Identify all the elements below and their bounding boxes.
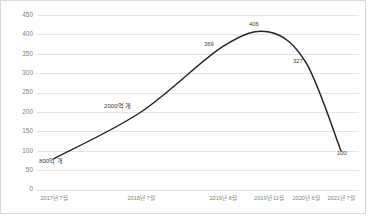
- x-axis-tick-label: 2018년 7월: [127, 196, 154, 202]
- line-chart: 450400350300250200150100500 2017년 7월2018…: [0, 0, 366, 214]
- x-axis-tick-label: 2020년 6월: [292, 196, 319, 202]
- plot-area: 450400350300250200150100500 2017년 7월2018…: [1, 1, 367, 215]
- x-axis-tick-label: 2017년 7월: [40, 196, 67, 202]
- x-axis-tick-label: 2019년 11월: [254, 196, 284, 202]
- data-point-label: 2000억 개: [104, 103, 131, 109]
- data-point-label: 800억 개: [39, 158, 63, 164]
- data-point-label: 327: [293, 59, 303, 65]
- data-point-label: 406: [249, 22, 259, 28]
- data-point-label: 369: [204, 42, 214, 48]
- x-axis-tick-label: 2019년 8월: [209, 196, 236, 202]
- x-axis-tick-label: 2021년 7월: [327, 196, 354, 202]
- data-point-label: 100: [337, 151, 347, 157]
- data-series-line: [1, 1, 367, 215]
- series-path: [54, 31, 341, 158]
